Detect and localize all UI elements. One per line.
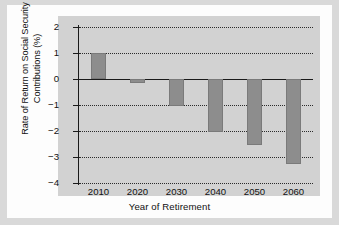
gridline--2 <box>79 131 313 132</box>
y-tick-label-0: 0 <box>25 73 59 84</box>
gridline--1 <box>79 105 313 106</box>
bar-2050 <box>247 79 263 145</box>
x-axis-title: Year of Retirement <box>7 201 332 212</box>
bar-2060 <box>286 79 302 164</box>
plot-area <box>79 27 313 183</box>
figure-root: Rate of Return on Social Security Contri… <box>0 0 339 225</box>
x-tick-label-2060: 2060 <box>273 186 315 197</box>
bar-2040 <box>208 79 224 132</box>
gridline-2 <box>79 27 313 28</box>
y-tick-label--3: −3 <box>25 151 59 162</box>
y-tick-label-2: 2 <box>25 21 59 32</box>
y-tick-label--4: −4 <box>25 177 59 188</box>
bar-2030 <box>169 79 185 106</box>
zero-line <box>79 79 313 80</box>
gridline-1 <box>79 53 313 54</box>
x-tick-label-2010: 2010 <box>78 186 120 197</box>
bar-2020 <box>130 79 146 83</box>
x-tick-label-2050: 2050 <box>234 186 276 197</box>
y-tick-label--2: −2 <box>25 125 59 136</box>
y-tick-label-1: 1 <box>25 47 59 58</box>
bar-2010 <box>91 53 107 79</box>
gridline--3 <box>79 157 313 158</box>
x-tick-label-2040: 2040 <box>195 186 237 197</box>
gridline--4 <box>79 183 313 184</box>
x-tick-label-2020: 2020 <box>117 186 159 197</box>
y-tick-label--1: −1 <box>25 99 59 110</box>
x-tick-label-2030: 2030 <box>156 186 198 197</box>
figure-canvas: Rate of Return on Social Security Contri… <box>7 5 332 218</box>
